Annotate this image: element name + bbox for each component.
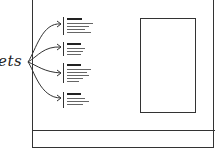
snippet-4 [63, 92, 107, 110]
snippet-1 [63, 17, 107, 37]
snippet-3 [63, 63, 107, 85]
annotation-arrows [0, 0, 224, 154]
snippet-2 [63, 42, 107, 58]
wireframe-diagram: ets [0, 0, 224, 154]
